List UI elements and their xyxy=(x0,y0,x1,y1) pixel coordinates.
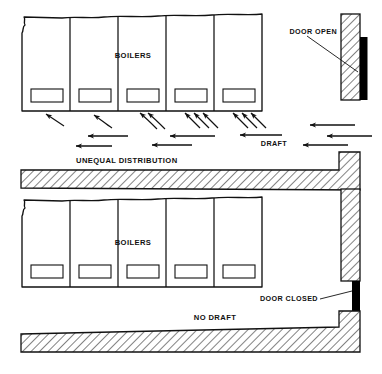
top-wall-and-door: DOOR OPEN xyxy=(289,14,367,100)
unequal-distribution-label: UNEQUAL DISTRIBUTION xyxy=(76,156,178,165)
bottom-boiler-port-3 xyxy=(127,265,159,278)
diagram-canvas: BOILERS DOOR OPEN xyxy=(0,0,382,374)
top-boiler-port-4 xyxy=(175,89,207,102)
bottom-boiler-port-4 xyxy=(175,265,207,278)
bottom-boilers-label: BOILERS xyxy=(115,238,152,247)
top-boilers-label: BOILERS xyxy=(115,51,152,60)
bottom-panel: BOILERS DOOR CLOSED NO DRAFT xyxy=(21,189,360,352)
top-wall-pillar xyxy=(341,14,360,100)
top-intake-arrows xyxy=(46,113,266,129)
intake-arrow-4a xyxy=(185,113,200,128)
bottom-boiler-bank: BOILERS xyxy=(22,197,262,287)
top-boiler-port-1 xyxy=(31,89,63,102)
top-boiler-port-2 xyxy=(79,89,111,102)
bottom-wall-pillar-upper xyxy=(341,189,360,281)
draft-label: DRAFT xyxy=(261,139,288,148)
bottom-boiler-port-2 xyxy=(79,265,111,278)
top-boiler-bank: BOILERS xyxy=(22,14,262,111)
intake-arrow-4b xyxy=(194,113,209,128)
intake-arrow-1 xyxy=(46,114,64,126)
top-draft-arrows xyxy=(76,125,372,146)
door-open-label: DOOR OPEN xyxy=(289,27,337,36)
door-closed-leader-line xyxy=(320,291,352,299)
intake-arrow-3a xyxy=(140,113,157,129)
intake-arrow-5c xyxy=(251,113,266,128)
top-boiler-port-5 xyxy=(223,89,255,102)
door-closed-label: DOOR CLOSED xyxy=(260,294,318,303)
no-draft-label: NO DRAFT xyxy=(194,313,236,322)
bottom-boiler-port-5 xyxy=(223,265,255,278)
door-open-panel xyxy=(360,37,368,100)
bottom-boiler-port-1 xyxy=(31,265,63,278)
bottom-floor-slab xyxy=(21,311,360,352)
bottom-wall-and-door: DOOR CLOSED xyxy=(260,189,360,324)
top-floor-slab xyxy=(21,152,360,190)
intake-arrow-2 xyxy=(94,115,112,128)
boiler-draft-diagram: BOILERS DOOR OPEN xyxy=(0,0,382,374)
intake-arrow-5b xyxy=(242,113,257,128)
top-boiler-port-3 xyxy=(127,89,159,102)
top-panel: BOILERS DOOR OPEN xyxy=(21,14,372,190)
intake-arrow-4c xyxy=(203,113,218,128)
intake-arrow-5a xyxy=(233,113,248,128)
intake-arrow-3b xyxy=(148,113,165,129)
